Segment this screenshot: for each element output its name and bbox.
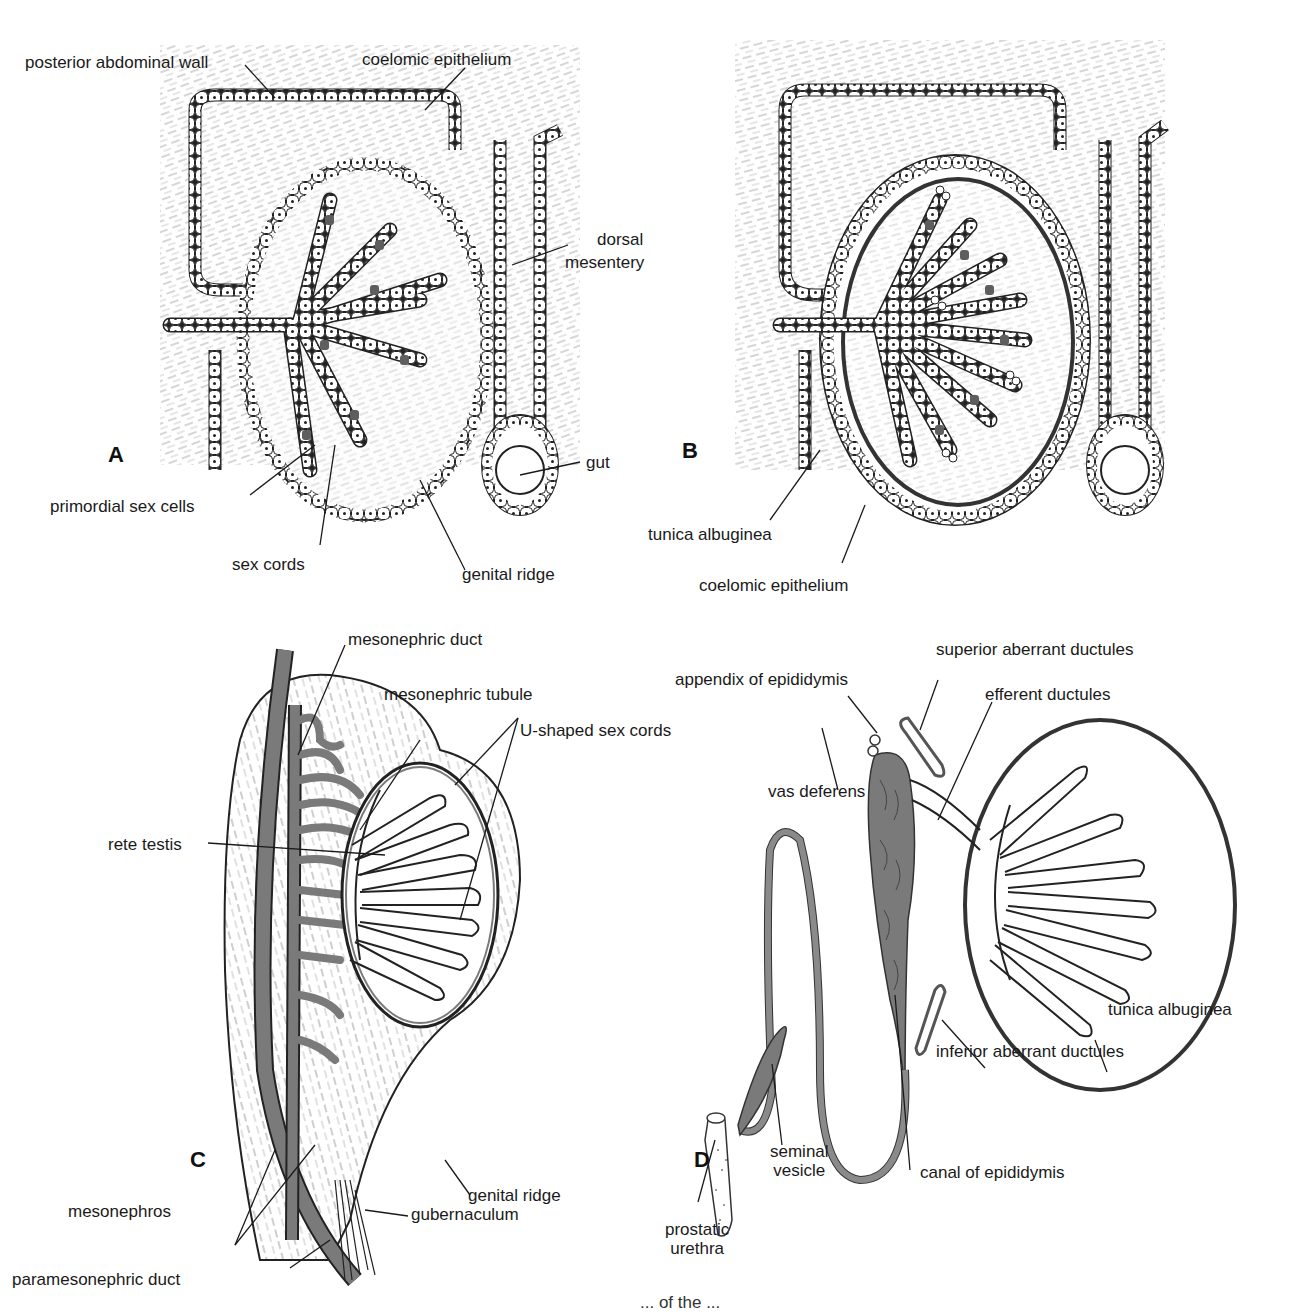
label-superior-aberrant-ductules: superior aberrant ductules xyxy=(936,640,1134,659)
label-mesonephric-duct: mesonephric duct xyxy=(348,630,482,649)
label-prostatic-urethra-line1: prostatic xyxy=(665,1220,729,1239)
panel-letter-b: B xyxy=(682,438,698,464)
label-rete-testis: rete testis xyxy=(108,835,182,854)
label-seminal-vesicle-line2: vesicle xyxy=(770,1161,829,1180)
panel-c: mesonephric duct mesonephric tubule U-sh… xyxy=(0,620,700,1300)
label-paramesonephric-duct: paramesonephric duct xyxy=(12,1270,180,1289)
label-prostatic-urethra: prostatic urethra xyxy=(665,1220,729,1258)
label-efferent-ductules: efferent ductules xyxy=(985,685,1110,704)
caption-text: ... of the ... xyxy=(640,1293,720,1312)
label-inferior-aberrant-ductules: inferior aberrant ductules xyxy=(936,1042,1124,1061)
panel-letter-a: A xyxy=(108,442,124,468)
label-coelomic-epithelium-b: coelomic epithelium xyxy=(699,576,848,595)
panel-b: B tunica albuginea coelomic epithelium xyxy=(640,0,1297,600)
label-seminal-vesicle-line1: seminal xyxy=(770,1142,829,1161)
label-seminal-vesicle: seminal vesicle xyxy=(770,1142,829,1180)
label-genital-ridge-c: genital ridge xyxy=(468,1186,561,1205)
label-mesonephric-tubule: mesonephric tubule xyxy=(384,685,532,704)
label-gut: gut xyxy=(586,453,610,472)
panel-a: posterior abdominal wall coelomic epithe… xyxy=(0,0,640,600)
panel-d: superior aberrant ductules appendix of e… xyxy=(680,620,1297,1300)
label-primordial-sex-cells: primordial sex cells xyxy=(50,497,195,516)
label-prostatic-urethra-line2: urethra xyxy=(665,1239,729,1258)
panel-b-illustration xyxy=(640,0,1297,600)
label-coelomic-epithelium: coelomic epithelium xyxy=(362,50,511,69)
label-tunica-albuginea-d: tunica albuginea xyxy=(1108,1000,1232,1019)
panel-letter-c: C xyxy=(190,1147,206,1173)
label-appendix-of-epididymis: appendix of epididymis xyxy=(675,670,848,689)
label-vas-deferens: vas deferens xyxy=(768,782,865,801)
label-sex-cords: sex cords xyxy=(232,555,305,574)
label-genital-ridge: genital ridge xyxy=(462,565,555,584)
label-canal-of-epididymis: canal of epididymis xyxy=(920,1163,1065,1182)
label-dorsal-mesentery-line2: mesentery xyxy=(565,253,644,272)
panel-d-illustration xyxy=(680,620,1297,1300)
label-dorsal-mesentery-line1: dorsal xyxy=(597,230,643,249)
label-u-shaped-sex-cords: U-shaped sex cords xyxy=(520,721,671,740)
label-gubernaculum: gubernaculum xyxy=(411,1205,519,1224)
label-tunica-albuginea-b: tunica albuginea xyxy=(648,525,772,544)
figure-caption-partial: ... of the ... xyxy=(0,1293,1297,1312)
panel-letter-d: D xyxy=(694,1147,710,1173)
label-mesonephros: mesonephros xyxy=(68,1202,171,1221)
label-posterior-abdominal-wall: posterior abdominal wall xyxy=(25,53,208,72)
